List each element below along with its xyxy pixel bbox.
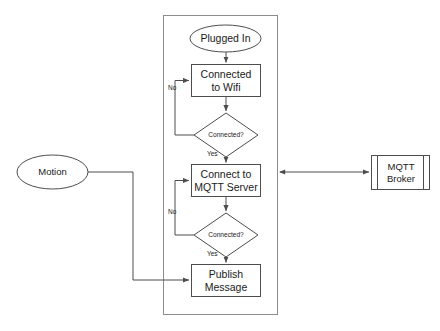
wifi-connected-decision-node[interactable] bbox=[194, 113, 258, 157]
mqtt-broker-node[interactable] bbox=[371, 155, 430, 190]
motion-node[interactable] bbox=[17, 155, 88, 189]
connect-to-mqtt-server-node[interactable] bbox=[191, 164, 261, 197]
plugged-in-node[interactable] bbox=[190, 25, 261, 52]
connected-to-wifi-node[interactable] bbox=[191, 64, 261, 97]
publish-message-node[interactable] bbox=[191, 264, 261, 297]
mqtt-connected-decision-node[interactable] bbox=[194, 213, 258, 257]
flowchart-canvas: Plugged In Connected to Wifi Connected? … bbox=[0, 0, 440, 331]
